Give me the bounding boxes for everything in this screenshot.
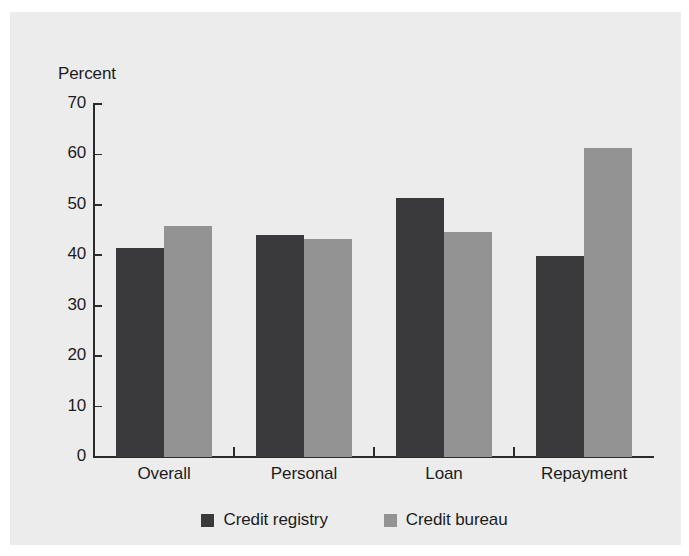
- y-axis-tick-label: 40: [52, 244, 86, 264]
- x-axis-category-label: Loan: [374, 464, 514, 484]
- square-swatch-dark: [201, 514, 214, 527]
- square-swatch-light: [384, 514, 397, 527]
- bar-repayment-credit-bureau: [584, 148, 632, 457]
- y-axis-tick-label: 0: [52, 446, 86, 466]
- bar-repayment-credit-registry: [536, 256, 584, 457]
- x-axis-category-label: Overall: [94, 464, 234, 484]
- y-axis-tick-label: 20: [52, 345, 86, 365]
- bar-overall-credit-registry: [116, 248, 164, 457]
- plot-area: [94, 104, 654, 457]
- y-axis-tick-label: 60: [52, 143, 86, 163]
- y-axis-tick-label: 70: [52, 93, 86, 113]
- bar-personal-credit-bureau: [304, 239, 352, 457]
- legend-item: Credit bureau: [384, 510, 508, 530]
- bar-loan-credit-registry: [396, 198, 444, 457]
- chart-legend: Credit registryCredit bureau: [10, 510, 689, 530]
- legend-label: Credit registry: [223, 510, 327, 530]
- x-axis-category-label: Personal: [234, 464, 374, 484]
- figure-panel: Percent 706050403020100 OverallPersonalL…: [10, 12, 681, 545]
- bar-loan-credit-bureau: [444, 232, 492, 457]
- legend-item: Credit registry: [201, 510, 327, 530]
- legend-label: Credit bureau: [406, 510, 508, 530]
- y-axis-tick-label: 50: [52, 194, 86, 214]
- bar-personal-credit-registry: [256, 235, 304, 457]
- x-axis-category-label: Repayment: [514, 464, 654, 484]
- bar-overall-credit-bureau: [164, 226, 212, 457]
- y-axis-tick-label: 30: [52, 295, 86, 315]
- y-axis-tick-labels: 706050403020100: [44, 12, 86, 556]
- y-axis-tick-label: 10: [52, 396, 86, 416]
